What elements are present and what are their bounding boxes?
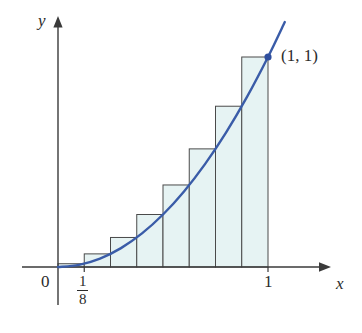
riemann-sum-figure: y x 0 1 1 8 (1, 1): [0, 0, 362, 333]
x-axis-arrowhead: [319, 262, 331, 272]
riemann-rectangle: [242, 57, 268, 267]
riemann-rectangles: [58, 57, 268, 267]
x-tick-label-one: 1: [264, 272, 273, 292]
x-axis-label: x: [336, 274, 344, 294]
x-tick-label-one-eighth: 1 8: [77, 274, 89, 307]
origin-tick-label: 0: [41, 272, 50, 292]
point-marker-1-1: [264, 53, 271, 60]
riemann-rectangle: [137, 215, 163, 268]
y-axis-arrowhead: [53, 16, 62, 28]
point-label-1-1: (1, 1): [281, 46, 318, 66]
fraction-denominator: 8: [77, 291, 89, 307]
riemann-rectangle: [163, 185, 189, 267]
fraction-numerator: 1: [77, 274, 89, 290]
y-axis-label: y: [38, 11, 46, 31]
axis-ticks: [84, 267, 268, 272]
